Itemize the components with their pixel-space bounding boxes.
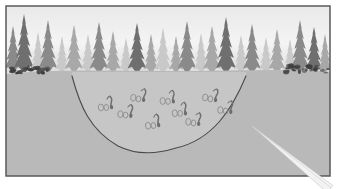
brush-clump bbox=[313, 67, 318, 72]
brush-clump bbox=[20, 70, 23, 74]
brush-clump bbox=[42, 71, 46, 74]
brush-clump bbox=[288, 66, 294, 69]
illustration-figure: Forest basin cross-section illustration bbox=[0, 0, 337, 189]
brush-clump bbox=[298, 69, 301, 74]
brush-clump bbox=[323, 72, 328, 74]
brush-clump bbox=[309, 68, 313, 71]
brush-clump bbox=[45, 67, 51, 71]
illustration-canvas: Forest basin cross-section illustration bbox=[0, 0, 337, 189]
brush-clump bbox=[283, 70, 289, 75]
brush-clump bbox=[320, 69, 325, 72]
brush-clump bbox=[37, 70, 41, 75]
brush-clump bbox=[305, 69, 308, 71]
brush-clump bbox=[294, 65, 300, 69]
brush-clump bbox=[314, 65, 319, 67]
brush-clump bbox=[9, 70, 15, 73]
brush-clump bbox=[9, 66, 15, 69]
brush-clump bbox=[28, 68, 34, 71]
